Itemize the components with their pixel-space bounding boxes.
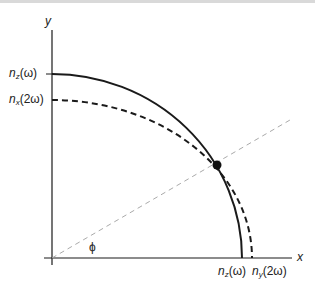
label-n: n [218, 264, 225, 278]
label-arg: (2ω) [263, 264, 287, 278]
label-arg: (ω) [20, 66, 37, 80]
nz-omega-x-label: nz(ω) [218, 264, 246, 279]
index-ellipse-diagram [0, 0, 315, 290]
ny-2omega-x-label: ny(2ω) [252, 264, 287, 279]
phi-label: ϕ [89, 240, 96, 254]
label-arg: (ω) [229, 264, 246, 278]
n-2omega-curve [52, 100, 252, 258]
phi-direction-line [52, 120, 290, 258]
phase-match-point [213, 161, 222, 170]
label-n: n [9, 92, 16, 106]
label-n: n [252, 264, 259, 278]
y-axis-label: y [45, 14, 51, 28]
label-arg: (2ω) [20, 92, 44, 106]
nx-2omega-y-label: nx(2ω) [9, 92, 44, 107]
label-n: n [9, 66, 16, 80]
x-axis-label: x [297, 250, 303, 264]
nz-omega-y-label: nz(ω) [9, 66, 37, 81]
